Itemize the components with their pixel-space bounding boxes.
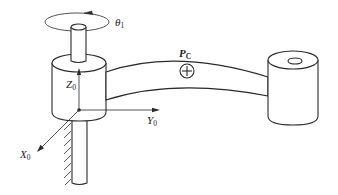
y-axis-label: Y0 — [147, 114, 157, 128]
joint-angle-label: θ1 — [115, 16, 124, 30]
base-post — [64, 120, 87, 185]
ground-hatch-icon — [64, 123, 71, 185]
center-of-mass-marker-icon — [180, 64, 194, 78]
center-of-mass-label: PC — [179, 47, 191, 61]
rotation-arrow-icon — [84, 11, 93, 15]
end-cylinder — [268, 51, 318, 125]
y-axis-arrow-icon — [152, 108, 160, 112]
x-axis-label: X0 — [19, 148, 31, 162]
robot-arm-diagram: θ1 Z0 Y0 X0 PC — [0, 0, 338, 195]
top-shaft — [71, 24, 86, 63]
